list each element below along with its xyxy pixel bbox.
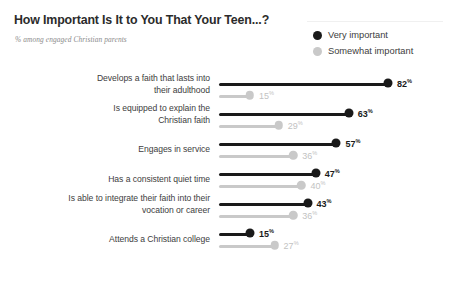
lollipop-knob-very — [311, 169, 320, 178]
value-label-very: 15% — [259, 228, 274, 239]
chart-row: Has a consistent quiet time47%40% — [0, 162, 451, 192]
value-label-somewhat: 36% — [302, 210, 317, 221]
value-label-somewhat: 36% — [302, 150, 317, 161]
value-label-somewhat: 27% — [284, 240, 299, 251]
value-number: 47 — [325, 169, 335, 179]
row-category-label: Attends a Christian college — [20, 234, 210, 246]
row-category-label-line: Is able to integrate their faith into th… — [20, 193, 210, 205]
row-category-label-line: Is equipped to explain the — [20, 103, 210, 115]
row-category-label-line: Christian faith — [20, 115, 210, 127]
lollipop-track-somewhat — [219, 215, 293, 218]
percent-sign: % — [368, 108, 373, 114]
legend-label-somewhat-important: Somewhat important — [328, 46, 413, 56]
chart-row: Is equipped to explain theChristian fait… — [0, 102, 451, 132]
percent-sign: % — [312, 210, 317, 216]
row-category-label: Is equipped to explain theChristian fait… — [20, 103, 210, 126]
value-number: 43 — [317, 199, 327, 209]
percent-sign: % — [269, 90, 274, 96]
chart-rows: Develops a faith that lasts intotheir ad… — [0, 72, 451, 252]
lollipop-track-very — [219, 113, 349, 116]
percent-sign: % — [355, 138, 360, 144]
lollipop-track-very — [219, 83, 388, 86]
lollipop-track-somewhat — [219, 125, 279, 128]
percent-sign: % — [294, 240, 299, 246]
row-category-label: Develops a faith that lasts intotheir ad… — [20, 73, 210, 96]
value-number: 15 — [259, 229, 269, 239]
lollipop-track-very — [219, 173, 316, 176]
row-category-label-line: Has a consistent quiet time — [20, 174, 210, 186]
lollipop-knob-very — [245, 229, 254, 238]
lollipop-knob-somewhat — [289, 151, 298, 160]
legend-dot-icon-very-important — [313, 31, 322, 40]
value-number: 15 — [259, 91, 269, 101]
lollipop-track-somewhat — [219, 155, 293, 158]
legend-dot-icon-somewhat-important — [313, 47, 322, 56]
row-category-label-line: Develops a faith that lasts into — [20, 73, 210, 85]
lollipop-track-very — [219, 203, 308, 206]
lollipop-track-somewhat — [219, 185, 301, 188]
lollipop-knob-very — [332, 139, 341, 148]
percent-sign: % — [320, 180, 325, 186]
lollipop-track-somewhat — [219, 245, 275, 248]
value-label-very: 63% — [358, 108, 373, 119]
value-label-very: 43% — [317, 198, 332, 209]
chart-row: Is able to integrate their faith into th… — [0, 192, 451, 222]
page-title: How Important Is It to You That Your Tee… — [14, 13, 269, 27]
percent-sign: % — [327, 198, 332, 204]
row-category-label-line: vocation or career — [20, 205, 210, 217]
lollipop-knob-somewhat — [246, 91, 255, 100]
percent-sign: % — [312, 150, 317, 156]
value-label-very: 57% — [345, 138, 360, 149]
row-category-label-line: Engages in service — [20, 144, 210, 156]
value-label-somewhat: 15% — [259, 90, 274, 101]
lollipop-knob-somewhat — [274, 121, 283, 130]
value-label-very: 82% — [397, 78, 412, 89]
lollipop-knob-very — [344, 109, 353, 118]
chart-subtitle: % among engaged Christian parents — [15, 35, 127, 44]
value-number: 57 — [345, 139, 355, 149]
percent-sign: % — [407, 78, 412, 84]
value-label-very: 47% — [325, 168, 340, 179]
value-label-somewhat: 29% — [288, 120, 303, 131]
chart-legend: Very important Somewhat important — [313, 27, 448, 59]
value-number: 29 — [288, 121, 298, 131]
value-number: 36 — [302, 151, 312, 161]
lollipop-knob-somewhat — [297, 181, 306, 190]
lollipop-knob-very — [383, 79, 392, 88]
value-number: 36 — [302, 211, 312, 221]
legend-divider — [307, 21, 443, 22]
lollipop-knob-somewhat — [289, 211, 298, 220]
chart-row: Engages in service57%36% — [0, 132, 451, 162]
percent-sign: % — [335, 168, 340, 174]
chart-row: Attends a Christian college15%27% — [0, 222, 451, 252]
row-category-label: Is able to integrate their faith into th… — [20, 193, 210, 216]
chart-row: Develops a faith that lasts intotheir ad… — [0, 72, 451, 102]
chart-container: How Important Is It to You That Your Tee… — [0, 0, 451, 282]
value-number: 82 — [397, 79, 407, 89]
value-number: 27 — [284, 241, 294, 251]
percent-sign: % — [298, 120, 303, 126]
legend-item-somewhat-important: Somewhat important — [313, 43, 448, 59]
row-category-label-line: their adulthood — [20, 85, 210, 97]
lollipop-track-very — [219, 143, 336, 146]
legend-label-very-important: Very important — [328, 30, 388, 40]
row-category-label: Has a consistent quiet time — [20, 174, 210, 186]
lollipop-knob-very — [303, 199, 312, 208]
lollipop-knob-somewhat — [270, 241, 279, 250]
value-label-somewhat: 40% — [310, 180, 325, 191]
value-number: 40 — [310, 181, 320, 191]
legend-item-very-important: Very important — [313, 27, 448, 43]
percent-sign: % — [269, 228, 274, 234]
row-category-label: Engages in service — [20, 144, 210, 156]
row-category-label-line: Attends a Christian college — [20, 234, 210, 246]
value-number: 63 — [358, 109, 368, 119]
